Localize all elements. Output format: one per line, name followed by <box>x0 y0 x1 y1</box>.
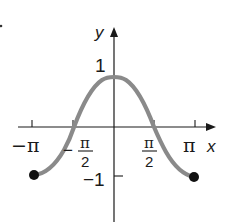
x-tick-label-neg-half-pi-num: π <box>80 134 90 152</box>
x-tick-label-pi: π <box>183 134 196 156</box>
axes <box>18 34 210 222</box>
x-tick-label-half-pi-num: π <box>144 134 154 152</box>
y-axis-label: y <box>94 23 105 42</box>
fragment-dot <box>0 25 2 28</box>
x-tick-label-neg-pi: −π <box>11 134 39 156</box>
x-tick-label-half-pi-den: 2 <box>145 153 153 170</box>
x-axis-label: x <box>206 137 216 156</box>
x-tick-label-neg-half-pi-den: 2 <box>81 153 89 170</box>
endpoint-right <box>189 172 199 182</box>
y-tick-label-neg-one: −1 <box>83 169 105 190</box>
y-tick-label-one: 1 <box>95 55 106 76</box>
cosine-graph: y x 1 −1 −π π − π 2 π 2 <box>0 0 225 222</box>
x-tick-label-neg-half-pi-sign: − <box>63 141 73 160</box>
x-axis-arrow-icon <box>206 123 216 131</box>
y-axis-arrow-icon <box>110 27 118 37</box>
endpoint-left <box>29 170 39 180</box>
